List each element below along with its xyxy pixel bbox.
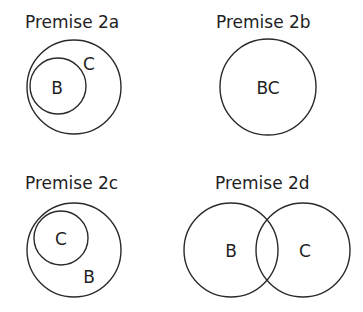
set-c-label: C — [83, 54, 95, 74]
set-c-label: C — [299, 241, 311, 261]
set-c-label: C — [55, 229, 67, 249]
set-bc-label: BC — [256, 78, 279, 98]
panel-title: Premise 2d — [215, 173, 310, 193]
panel-premise-2b: Premise 2b BC — [216, 12, 316, 135]
panel-title: Premise 2a — [25, 12, 119, 32]
panel-premise-2c: Premise 2c C B — [25, 173, 121, 297]
panel-premise-2d: Premise 2d B C — [184, 173, 350, 297]
panel-title: Premise 2c — [25, 173, 118, 193]
set-b-label: B — [83, 267, 95, 287]
set-b-circle — [27, 203, 121, 297]
set-c-circle — [27, 40, 121, 134]
panel-premise-2a: Premise 2a B C — [25, 12, 121, 134]
set-b-label: B — [225, 241, 237, 261]
set-b-label: B — [51, 78, 63, 98]
panel-title: Premise 2b — [216, 12, 311, 32]
venn-diagram-figure: Premise 2a B C Premise 2b BC Premise 2c … — [0, 0, 363, 312]
